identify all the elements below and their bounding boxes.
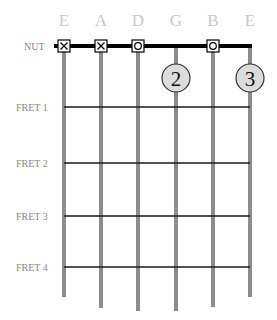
strings	[64, 46, 250, 311]
string-names: EADGBE	[59, 11, 255, 30]
marker-box	[207, 40, 219, 52]
open-string-marker	[132, 40, 144, 52]
chord-diagram: EADGBE FRET 1FRET 2FRET 3FRET 4 NUT 23	[0, 0, 277, 320]
string-name-label: B	[207, 11, 218, 30]
fret-label: FRET 4	[16, 262, 48, 273]
fret-label: FRET 2	[16, 158, 48, 169]
chord-diagram-canvas: EADGBE FRET 1FRET 2FRET 3FRET 4 NUT 23	[0, 0, 277, 320]
fret-label: FRET 1	[16, 102, 48, 113]
string-name-label: G	[170, 11, 182, 30]
string-name-label: E	[245, 11, 255, 30]
muted-string-marker	[58, 40, 70, 52]
string-name-label: E	[59, 11, 69, 30]
finger-dot: 3	[236, 64, 264, 92]
string-name-label: D	[132, 11, 144, 30]
nut-label: NUT	[24, 41, 45, 52]
finger-number: 3	[245, 67, 256, 91]
open-string-marker	[207, 40, 219, 52]
nut-end	[54, 44, 57, 48]
finger-number: 2	[171, 67, 182, 91]
string-name-label: A	[95, 11, 108, 30]
fret-label: FRET 3	[16, 211, 48, 222]
muted-string-marker	[95, 40, 107, 52]
finger-dot: 2	[162, 64, 190, 92]
marker-box	[132, 40, 144, 52]
